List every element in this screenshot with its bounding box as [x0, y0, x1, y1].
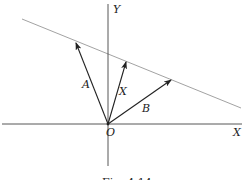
affine-line	[22, 19, 241, 108]
vector-x-label: X	[118, 85, 128, 98]
origin-point	[107, 123, 110, 126]
vector-b	[108, 80, 171, 124]
y-axis-label: Y	[113, 3, 122, 16]
vector-a-label: A	[81, 78, 90, 91]
x-axis-label: X	[232, 126, 242, 139]
vector-b-label: B	[141, 102, 150, 115]
vector-diagram: Y X O A X B Fig. 4.14	[0, 0, 244, 180]
vector-a	[76, 43, 108, 124]
origin-label: O	[106, 126, 115, 139]
figure-caption: Fig. 4.14	[102, 176, 152, 180]
